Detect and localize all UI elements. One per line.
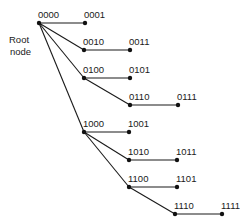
node-dot-icon xyxy=(128,48,132,52)
node-label: 1010 xyxy=(128,146,149,157)
tree-node-0001: 0001 xyxy=(83,9,105,25)
node-label: 0110 xyxy=(129,91,149,102)
root-node-caption-line2: node xyxy=(10,46,31,57)
node-label: 0011 xyxy=(129,36,149,47)
node-dot-icon xyxy=(83,21,87,25)
edge-0100-0110 xyxy=(84,78,130,105)
edge-0000-1000 xyxy=(39,23,84,132)
node-dot-icon xyxy=(127,185,131,189)
node-label: 1100 xyxy=(128,173,148,184)
node-label: 1011 xyxy=(176,146,196,157)
root-node-caption-line1: Root xyxy=(9,34,29,45)
node-dot-icon xyxy=(127,130,131,134)
binomial-tree-diagram: 0000000100100011010001010110011110001001… xyxy=(0,0,240,224)
node-label: 1101 xyxy=(176,173,196,184)
node-label: 0000 xyxy=(38,9,59,20)
node-dot-icon xyxy=(128,76,132,80)
node-dot-icon xyxy=(127,158,131,162)
node-dot-icon xyxy=(37,21,41,25)
node-dot-icon xyxy=(128,103,132,107)
node-label: 0111 xyxy=(177,91,197,102)
tree-node-1011: 1011 xyxy=(175,146,197,162)
node-dot-icon xyxy=(176,103,180,107)
tree-node-1111: 1111 xyxy=(220,200,240,216)
node-dot-icon xyxy=(82,48,86,52)
node-dot-icon xyxy=(82,76,86,80)
node-label: 0010 xyxy=(83,36,104,47)
node-label: 0001 xyxy=(84,9,105,20)
tree-node-0101: 0101 xyxy=(128,64,150,80)
tree-node-0111: 0111 xyxy=(176,91,197,107)
node-label: 1110 xyxy=(174,200,194,211)
tree-node-0011: 0011 xyxy=(128,36,150,52)
tree-node-1101: 1101 xyxy=(175,173,197,189)
node-label: 1001 xyxy=(128,118,149,129)
node-dot-icon xyxy=(220,212,224,216)
tree-node-1001: 1001 xyxy=(127,118,149,134)
node-dot-icon xyxy=(173,212,177,216)
node-dot-icon xyxy=(175,185,179,189)
edge-0000-0010 xyxy=(39,23,84,50)
node-label: 0101 xyxy=(129,64,150,75)
node-dot-icon xyxy=(175,158,179,162)
edge-1000-1010 xyxy=(84,132,129,160)
node-label: 1111 xyxy=(221,200,240,211)
node-label: 0100 xyxy=(83,64,104,75)
node-dot-icon xyxy=(82,130,86,134)
node-label: 1000 xyxy=(83,118,104,129)
edge-0000-0100 xyxy=(39,23,84,78)
edge-1000-1100 xyxy=(84,132,129,187)
edge-1100-1110 xyxy=(129,187,175,214)
